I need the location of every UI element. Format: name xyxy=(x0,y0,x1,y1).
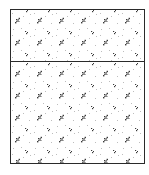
concrete-hatch-pattern-upper xyxy=(11,10,144,62)
lower-hatched-panel xyxy=(11,63,144,163)
panel-divider-line xyxy=(11,61,144,62)
hatched-section-frame xyxy=(10,9,145,164)
upper-hatched-panel xyxy=(11,10,144,62)
concrete-hatch-pattern-lower xyxy=(11,63,144,163)
